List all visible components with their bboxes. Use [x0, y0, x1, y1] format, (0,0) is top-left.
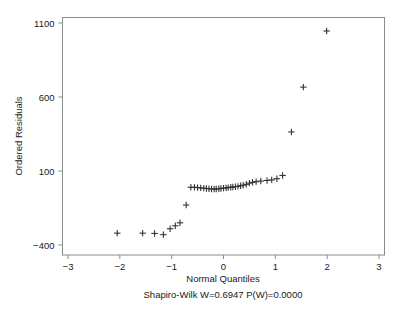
x-axis-title: Normal Quantiles	[186, 273, 260, 284]
data-point-marker	[253, 178, 259, 184]
data-point-marker	[139, 230, 145, 236]
data-point-marker	[323, 28, 329, 34]
data-point-marker	[269, 177, 275, 183]
y-axis: −4001006001100	[33, 18, 62, 251]
x-axis: −3−2−10123	[63, 255, 382, 272]
x-tick-label: 1	[273, 261, 278, 272]
data-point-marker	[160, 231, 166, 237]
data-point-marker	[177, 220, 183, 226]
data-point-marker	[249, 179, 255, 185]
x-tick-label: −3	[63, 261, 74, 272]
plot-border	[63, 18, 385, 256]
data-point-marker	[258, 178, 264, 184]
data-point-marker	[114, 230, 120, 236]
qq-plot-figure: −4001006001100 −3−2−10123 Ordered Residu…	[0, 0, 407, 312]
x-tick-label: −1	[166, 261, 177, 272]
y-tick-label: −400	[33, 240, 54, 251]
data-point-marker	[167, 226, 173, 232]
x-tick-label: −2	[114, 261, 125, 272]
data-point-marker	[151, 230, 157, 236]
qq-plot-canvas: −4001006001100 −3−2−10123 Ordered Residu…	[0, 0, 407, 312]
data-point-marker	[279, 172, 285, 178]
data-point-marker	[264, 177, 270, 183]
y-tick-label: 1100	[34, 18, 54, 29]
x-tick-label: 0	[221, 261, 226, 272]
data-point-marker	[183, 202, 189, 208]
data-point-layer	[114, 28, 330, 238]
plot-frame	[63, 18, 385, 256]
data-point-marker	[246, 180, 252, 186]
y-tick-label: 600	[39, 92, 55, 103]
shapiro-wilk-annotation: Shapiro-Wilk W=0.6947 P(W)=0.0000	[144, 289, 303, 300]
y-tick-label: 100	[39, 166, 55, 177]
data-point-marker	[243, 181, 249, 187]
x-tick-label: 2	[325, 261, 330, 272]
data-point-marker	[274, 175, 280, 181]
data-point-marker	[288, 129, 294, 135]
x-tick-label: 3	[376, 261, 381, 272]
data-point-marker	[300, 84, 306, 90]
data-point-marker	[172, 223, 178, 229]
y-axis-title: Ordered Residuals	[13, 96, 24, 175]
